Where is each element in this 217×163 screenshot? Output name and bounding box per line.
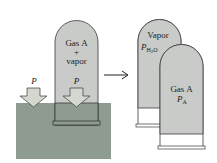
right-arrow-icon bbox=[104, 71, 128, 79]
vapor-tube-label: Vapor bbox=[147, 30, 169, 40]
left-tube-lip bbox=[53, 121, 100, 125]
inner-pressure-label: P bbox=[73, 76, 80, 86]
outside-pressure-label: P bbox=[30, 76, 37, 86]
left-tube-label-vapor: vapor bbox=[66, 56, 87, 66]
gas-collection-diagram: Gas A + vapor P P Vapor PH2O Gas A PA bbox=[0, 0, 217, 163]
gas-a-tube-label: Gas A bbox=[170, 84, 193, 94]
